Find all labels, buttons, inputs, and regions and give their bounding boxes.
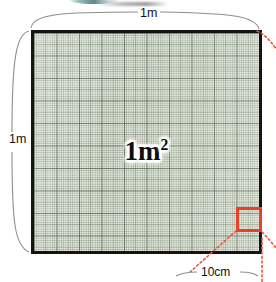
top-dimension-label: 1m xyxy=(138,7,159,21)
diagram-canvas: 1m2 1m 1m 10cm xyxy=(0,0,276,282)
grey-accent-sliver xyxy=(96,2,168,6)
callout-leader-bottomright xyxy=(262,232,276,248)
left-dimension-bracket-bottom xyxy=(12,152,29,252)
callout-dimension-label: 10cm xyxy=(199,266,232,279)
left-dimension-bracket-top xyxy=(12,31,29,132)
area-label: 1m2 xyxy=(31,138,262,165)
callout-dimension-bracket-left xyxy=(176,272,197,276)
area-label-value: 1m xyxy=(125,136,161,166)
ten-centimetre-callout-square xyxy=(236,207,262,232)
callout-dimension-bracket-right xyxy=(240,272,258,276)
top-dimension-bracket-left xyxy=(31,12,138,28)
left-dimension-label: 1m xyxy=(7,133,28,147)
square-metre-figure: 1m2 xyxy=(31,30,262,254)
area-label-exponent: 2 xyxy=(161,136,169,153)
top-dimension-bracket-right xyxy=(160,12,259,29)
